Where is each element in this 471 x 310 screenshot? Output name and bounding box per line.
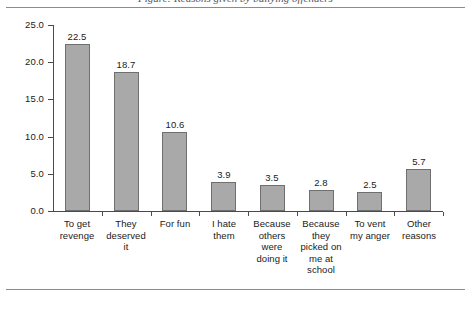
y-axis-tick-label: 20.0: [0, 56, 44, 67]
x-axis-category-label: Becauseothersweredoing it: [244, 218, 300, 264]
bar: [309, 190, 334, 211]
y-axis-line: [53, 25, 54, 212]
bar: [260, 185, 285, 211]
y-axis-tick: [48, 137, 53, 138]
y-axis-tick-label: 15.0: [0, 93, 44, 104]
y-axis-tick-label: 5.0: [0, 168, 44, 179]
y-axis-tick: [48, 211, 53, 212]
bar-value-label: 2.5: [348, 179, 392, 190]
bar: [211, 182, 236, 211]
bar-value-label: 3.9: [202, 169, 246, 180]
bar-value-label: 10.6: [153, 119, 197, 130]
bar: [114, 72, 139, 211]
x-axis-category-label: To getrevenge: [49, 218, 105, 241]
bar-value-label: 5.7: [397, 156, 441, 167]
bar: [162, 132, 187, 211]
x-axis-category-label: Becausetheypicked onme atschool: [293, 218, 349, 276]
y-axis-tick-label: 0.0: [0, 205, 44, 216]
bar-value-label: 2.8: [299, 177, 343, 188]
bar: [406, 169, 431, 211]
y-axis-tick: [48, 174, 53, 175]
x-axis-tick: [297, 212, 298, 216]
x-axis-category-label: For fun: [147, 218, 203, 230]
x-axis-tick: [443, 212, 444, 216]
x-axis-category-label: To ventmy anger: [342, 218, 398, 241]
bar: [65, 44, 90, 211]
y-axis-tick-label: 25.0: [0, 19, 44, 30]
bar-chart-plot-area: 0.05.010.015.020.025.022.5To getrevenge1…: [0, 0, 471, 310]
figure-container: Figure: Reasons given by bullying offend…: [0, 0, 471, 310]
y-axis-tick: [48, 99, 53, 100]
bar-value-label: 18.7: [104, 59, 148, 70]
x-axis-category-label: Theydeservedit: [98, 218, 154, 253]
x-axis-tick: [102, 212, 103, 216]
bar-value-label: 3.5: [250, 172, 294, 183]
y-axis-tick: [48, 25, 53, 26]
y-axis-tick-label: 10.0: [0, 131, 44, 142]
bar: [357, 192, 382, 211]
x-axis-tick: [199, 212, 200, 216]
y-axis-tick: [48, 62, 53, 63]
x-axis-category-label: Otherreasons: [391, 218, 447, 241]
x-axis-tick: [248, 212, 249, 216]
x-axis-tick: [151, 212, 152, 216]
bar-value-label: 22.5: [55, 31, 99, 42]
x-axis-tick: [346, 212, 347, 216]
x-axis-tick: [394, 212, 395, 216]
